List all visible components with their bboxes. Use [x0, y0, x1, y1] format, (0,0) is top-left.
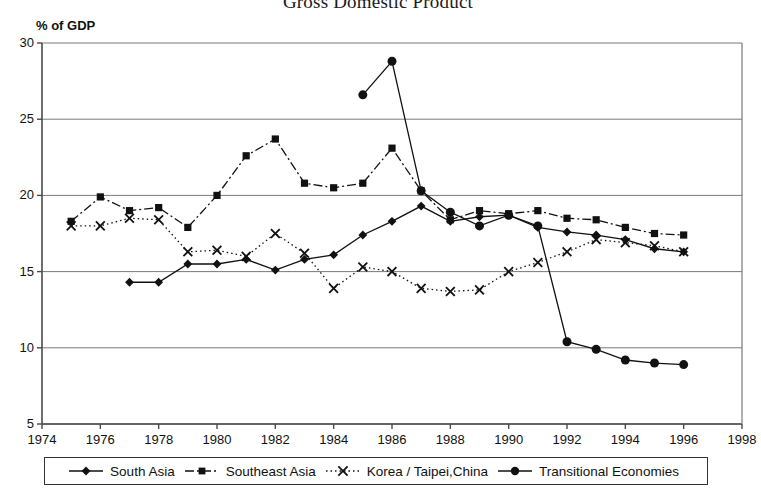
legend-marker-square-icon	[182, 464, 222, 478]
marker-square	[563, 215, 570, 222]
marker-square	[388, 145, 395, 152]
legend-entry[interactable]: Transitional Economies	[495, 464, 686, 479]
marker-square	[330, 184, 337, 191]
legend-entry[interactable]: Korea / Taipei,China	[323, 464, 495, 479]
marker-square	[198, 468, 205, 475]
marker-circle	[533, 221, 542, 230]
marker-circle	[417, 186, 426, 195]
marker-square	[272, 135, 279, 142]
legend-entry[interactable]: Southeast Asia	[182, 464, 323, 479]
marker-circle	[621, 355, 630, 364]
marker-square	[359, 180, 366, 187]
marker-circle	[358, 90, 367, 99]
marker-diamond	[125, 278, 134, 287]
x-tick-label: 1982	[253, 432, 297, 447]
marker-x	[125, 214, 134, 223]
x-tick-label: 1974	[20, 432, 64, 447]
marker-diamond	[388, 217, 397, 226]
legend-marker-circle-icon	[495, 464, 535, 478]
x-tick-label: 1978	[137, 432, 181, 447]
x-tick-label: 1988	[428, 432, 472, 447]
y-tick-label: 5	[0, 416, 34, 431]
x-tick-label: 1992	[545, 432, 589, 447]
marker-diamond	[154, 278, 163, 287]
x-tick-label: 1990	[487, 432, 531, 447]
marker-diamond	[358, 231, 367, 240]
legend-entry[interactable]: South Asia	[66, 464, 182, 479]
marker-square	[447, 216, 454, 223]
marker-diamond	[183, 260, 192, 269]
marker-diamond	[592, 231, 601, 240]
marker-circle	[592, 345, 601, 354]
marker-x	[533, 258, 542, 267]
marker-x	[271, 229, 280, 238]
marker-square	[184, 224, 191, 231]
marker-x	[154, 215, 163, 224]
marker-diamond	[417, 202, 426, 211]
marker-x	[563, 247, 572, 256]
marker-square	[301, 180, 308, 187]
y-axis-unit-label: % of GDP	[36, 18, 95, 33]
marker-circle	[650, 359, 659, 368]
marker-diamond	[271, 266, 280, 275]
legend-label: South Asia	[106, 464, 182, 479]
marker-circle	[504, 211, 513, 220]
marker-square	[593, 216, 600, 223]
marker-x	[329, 284, 338, 293]
legend-label: Korea / Taipei,China	[363, 464, 495, 479]
legend-marker-x-icon	[323, 464, 363, 478]
marker-square	[155, 204, 162, 211]
marker-circle	[679, 360, 688, 369]
marker-circle	[446, 208, 455, 217]
x-tick-label: 1996	[662, 432, 706, 447]
legend-marker-diamond-icon	[66, 464, 106, 478]
marker-x	[183, 247, 192, 256]
x-tick-label: 1986	[370, 432, 414, 447]
series-southeast-asia	[68, 135, 688, 238]
marker-diamond	[82, 467, 91, 476]
x-tick-label: 1976	[78, 432, 122, 447]
series-line	[71, 218, 684, 291]
marker-square	[97, 193, 104, 200]
x-tick-label: 1980	[195, 432, 239, 447]
marker-circle	[511, 467, 519, 475]
marker-square	[651, 230, 658, 237]
series-line	[71, 139, 684, 235]
y-tick-label: 20	[0, 187, 34, 202]
y-tick-label: 10	[0, 340, 34, 355]
series-line	[130, 206, 684, 282]
marker-circle	[563, 337, 572, 346]
y-tick-label: 30	[0, 35, 34, 50]
marker-square	[126, 207, 133, 214]
chart-title: Gross Domestic Product	[0, 0, 756, 13]
marker-square	[213, 192, 220, 199]
marker-square	[534, 207, 541, 214]
marker-diamond	[213, 260, 222, 269]
marker-x	[417, 284, 426, 293]
marker-square	[476, 207, 483, 214]
y-tick-label: 25	[0, 111, 34, 126]
marker-circle	[475, 221, 484, 230]
series-line	[363, 61, 684, 364]
marker-x	[475, 285, 484, 294]
marker-diamond	[563, 228, 572, 237]
legend-label: Transitional Economies	[535, 464, 686, 479]
marker-square	[243, 152, 250, 159]
marker-square	[680, 231, 687, 238]
x-tick-label: 1998	[720, 432, 761, 447]
series-south-asia	[125, 202, 688, 287]
y-tick-label: 15	[0, 264, 34, 279]
legend-label: Southeast Asia	[222, 464, 323, 479]
chart-legend: South AsiaSoutheast AsiaKorea / Taipei,C…	[44, 457, 708, 485]
x-tick-label: 1994	[603, 432, 647, 447]
marker-diamond	[329, 250, 338, 259]
marker-circle	[388, 57, 397, 66]
x-tick-label: 1984	[312, 432, 356, 447]
marker-square	[622, 224, 629, 231]
marker-x	[446, 287, 455, 296]
marker-x	[96, 221, 105, 230]
